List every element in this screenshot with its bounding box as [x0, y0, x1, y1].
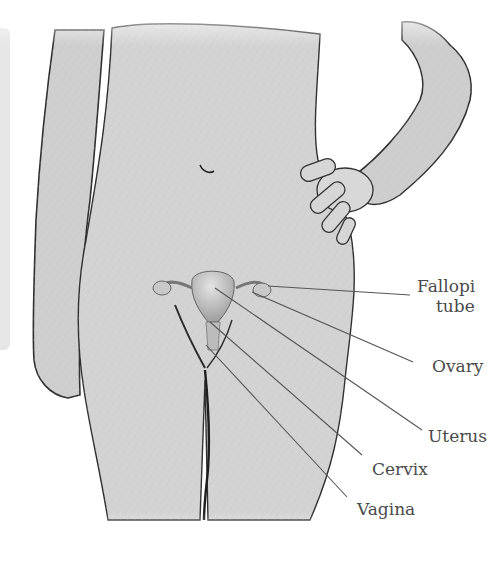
- label-uterus: Uterus: [428, 427, 487, 445]
- label-fallopian-tube: Fallopi: [417, 277, 475, 295]
- label-vagina: Vagina: [357, 500, 415, 518]
- label-ovary: Ovary: [432, 357, 483, 375]
- label-fallopian-tube-line2-wrap: tube: [436, 297, 475, 315]
- label-fallopian-tube-line1: Fallopi: [417, 276, 475, 296]
- label-fallopian-tube-line2: tube: [436, 296, 475, 316]
- label-uterus-text: Uterus: [428, 426, 487, 446]
- label-cervix: Cervix: [372, 460, 428, 478]
- label-vagina-text: Vagina: [357, 499, 415, 519]
- label-cervix-text: Cervix: [372, 459, 428, 479]
- label-ovary-text: Ovary: [432, 356, 483, 376]
